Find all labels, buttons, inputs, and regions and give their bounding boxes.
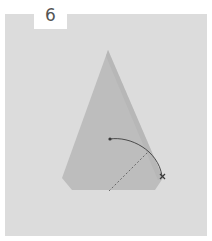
- fold-start-dot-icon: [108, 137, 111, 140]
- fold-diagram: [0, 0, 212, 241]
